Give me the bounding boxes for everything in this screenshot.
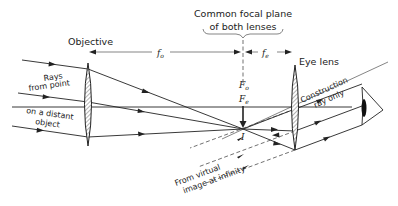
fe-dimension: fe xyxy=(245,48,292,59)
diverging-rays xyxy=(243,109,295,150)
eye-icon xyxy=(362,87,384,125)
arrow-icon xyxy=(323,137,330,142)
arrow-icon xyxy=(271,127,278,132)
arrow-down-icon xyxy=(240,121,247,128)
svg-text:from point: from point xyxy=(28,78,70,93)
arrow-icon xyxy=(37,128,45,133)
arrow-right-icon xyxy=(234,50,241,55)
image-label: I xyxy=(240,132,245,142)
eye-lens-label: Eye lens xyxy=(299,56,339,67)
arrow-icon xyxy=(138,132,145,137)
arrow-icon xyxy=(273,141,281,146)
fo-dimension: fo xyxy=(89,48,241,59)
fo-symbol: fo xyxy=(156,48,164,59)
fe-symbol: fe xyxy=(261,48,269,59)
focal-plane-label-line1: Common focal plane xyxy=(194,8,292,19)
focal-plane-label: Common focal plane of both lenses xyxy=(194,8,292,38)
virtual-image-label: From virtual image at infinity xyxy=(174,155,247,198)
telescope-diagram: Common focal plane of both lenses Object… xyxy=(0,0,398,206)
construction-label: Construction ray only xyxy=(299,76,353,114)
objective-lens-icon xyxy=(85,63,92,146)
arrow-icon xyxy=(43,94,51,99)
arrow-right-icon xyxy=(285,50,292,55)
objective-label: Objective xyxy=(68,36,113,47)
Fe-symbol: Fe xyxy=(238,94,249,105)
arrow-icon xyxy=(314,121,321,126)
arrow-icon xyxy=(142,89,151,94)
arrow-icon xyxy=(138,109,146,114)
rays-label: Rays from point on a distant object xyxy=(26,71,74,129)
eye-lens-icon xyxy=(292,65,299,150)
Fo-symbol: Fo xyxy=(238,80,249,91)
focal-plane-label-line2: of both lenses xyxy=(209,21,276,32)
arrow-icon xyxy=(272,133,280,138)
converging-rays xyxy=(88,69,243,137)
arrow-left-icon xyxy=(89,50,96,55)
arrow-icon xyxy=(237,154,244,159)
